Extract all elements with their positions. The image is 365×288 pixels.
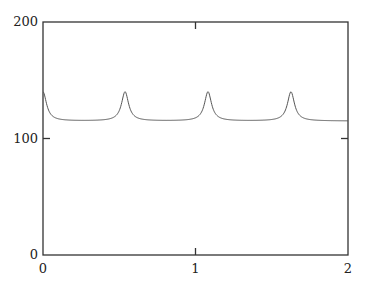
x-tick-label: 2 [344, 261, 352, 276]
line-chart: 0120100200 [0, 0, 365, 288]
plot-border [43, 22, 348, 255]
y-tick-label: 200 [13, 14, 38, 29]
axis-ticks [43, 22, 348, 255]
data-line [43, 92, 348, 121]
y-tick-label: 0 [30, 247, 38, 262]
plot-frame [43, 22, 348, 255]
y-tick-label: 100 [13, 131, 38, 146]
x-tick-label: 0 [39, 261, 47, 276]
tick-labels: 0120100200 [13, 14, 352, 276]
x-tick-label: 1 [191, 261, 199, 276]
